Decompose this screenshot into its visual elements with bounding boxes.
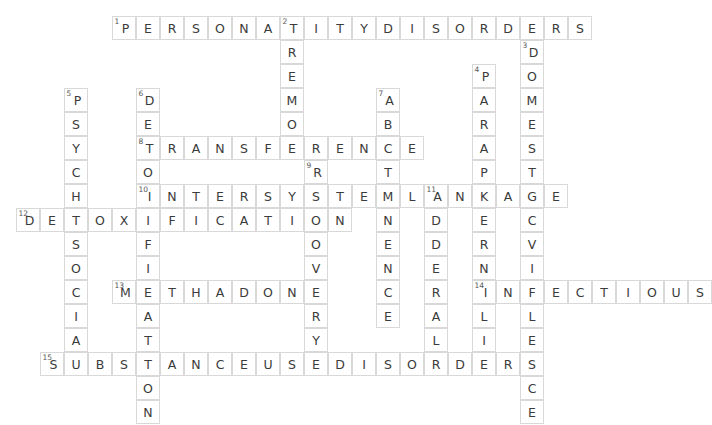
crossword-cell[interactable]: E [424,256,448,280]
crossword-cell[interactable]: A [160,352,184,376]
crossword-cell[interactable]: F [520,280,544,304]
crossword-cell[interactable]: E [136,280,160,304]
crossword-cell[interactable]: E [520,400,544,424]
crossword-cell[interactable]: E [544,280,568,304]
crossword-cell[interactable]: I [136,208,160,232]
crossword-cell[interactable]: A [496,184,520,208]
crossword-cell[interactable]: T [136,328,160,352]
crossword-cell[interactable]: 5P [64,88,88,112]
crossword-cell[interactable]: D [232,280,256,304]
crossword-cell[interactable]: E [376,304,400,328]
crossword-cell[interactable]: T [184,184,208,208]
crossword-cell[interactable]: F [256,136,280,160]
crossword-cell[interactable]: A [208,280,232,304]
crossword-cell[interactable]: D [448,352,472,376]
crossword-cell[interactable]: T [592,280,616,304]
crossword-cell[interactable]: E [136,16,160,40]
crossword-cell[interactable]: H [64,184,88,208]
crossword-cell[interactable]: N [208,136,232,160]
crossword-cell[interactable]: R [496,352,520,376]
crossword-cell[interactable]: X [112,208,136,232]
crossword-cell[interactable]: I [280,208,304,232]
crossword-cell[interactable]: E [328,136,352,160]
crossword-cell[interactable]: A [232,208,256,232]
crossword-cell[interactable]: E [472,208,496,232]
crossword-cell[interactable]: R [472,232,496,256]
crossword-cell[interactable]: C [520,376,544,400]
crossword-cell[interactable]: N [328,208,352,232]
crossword-cell[interactable]: R [304,136,328,160]
crossword-cell[interactable]: U [64,352,88,376]
crossword-cell[interactable]: 13M [112,280,136,304]
crossword-cell[interactable]: F [160,208,184,232]
crossword-cell[interactable]: E [136,112,160,136]
crossword-cell[interactable]: I [616,280,640,304]
crossword-cell[interactable]: E [376,232,400,256]
crossword-cell[interactable]: N [232,16,256,40]
crossword-cell[interactable]: T [160,280,184,304]
crossword-cell[interactable]: C [208,208,232,232]
crossword-cell[interactable]: E [208,184,232,208]
crossword-cell[interactable]: A [64,328,88,352]
crossword-cell[interactable]: S [256,184,280,208]
crossword-cell[interactable]: I [184,208,208,232]
crossword-cell[interactable]: N [184,352,208,376]
crossword-cell[interactable]: O [400,352,424,376]
crossword-cell[interactable]: A [256,16,280,40]
crossword-cell[interactable]: C [568,280,592,304]
crossword-cell[interactable]: T [328,16,352,40]
crossword-cell[interactable]: M [520,88,544,112]
crossword-cell[interactable]: L [400,184,424,208]
crossword-cell[interactable]: D [376,16,400,40]
crossword-cell[interactable]: A [424,304,448,328]
crossword-cell[interactable]: E [520,328,544,352]
crossword-cell[interactable]: 4P [472,64,496,88]
crossword-cell[interactable]: D [328,352,352,376]
crossword-cell[interactable]: O [208,16,232,40]
crossword-cell[interactable]: O [448,16,472,40]
crossword-cell[interactable]: F [136,232,160,256]
crossword-cell[interactable]: E [520,112,544,136]
crossword-cell[interactable]: E [544,184,568,208]
crossword-cell[interactable]: 15S [40,352,64,376]
crossword-cell[interactable]: N [352,136,376,160]
crossword-cell[interactable]: N [136,400,160,424]
crossword-cell[interactable]: S [688,280,712,304]
crossword-cell[interactable]: C [376,136,400,160]
crossword-cell[interactable]: E [472,352,496,376]
crossword-cell[interactable]: E [232,352,256,376]
crossword-cell[interactable]: Y [304,328,328,352]
crossword-cell[interactable]: T [64,208,88,232]
crossword-cell[interactable]: N [472,256,496,280]
crossword-cell[interactable]: O [136,376,160,400]
crossword-cell[interactable]: A [472,136,496,160]
crossword-cell[interactable]: S [64,112,88,136]
crossword-cell[interactable]: O [136,160,160,184]
crossword-cell[interactable]: L [520,304,544,328]
crossword-cell[interactable]: D [424,208,448,232]
crossword-cell[interactable]: R [160,136,184,160]
crossword-cell[interactable]: R [232,184,256,208]
crossword-cell[interactable]: A [184,136,208,160]
crossword-cell[interactable]: R [544,16,568,40]
crossword-cell[interactable]: K [472,184,496,208]
crossword-cell[interactable]: S [232,136,256,160]
crossword-cell[interactable]: I [64,304,88,328]
crossword-cell[interactable]: 2T [280,16,304,40]
crossword-cell[interactable]: T [520,160,544,184]
crossword-cell[interactable]: M [280,88,304,112]
crossword-cell[interactable]: S [520,352,544,376]
crossword-cell[interactable]: O [304,232,328,256]
crossword-cell[interactable]: U [664,280,688,304]
crossword-cell[interactable]: O [280,112,304,136]
crossword-cell[interactable]: I [520,256,544,280]
crossword-cell[interactable]: D [496,16,520,40]
crossword-cell[interactable]: Y [352,16,376,40]
crossword-cell[interactable]: S [112,352,136,376]
crossword-cell[interactable]: T [256,208,280,232]
crossword-cell[interactable]: A [136,304,160,328]
crossword-cell[interactable]: T [136,352,160,376]
crossword-cell[interactable]: 7A [376,88,400,112]
crossword-cell[interactable]: C [64,280,88,304]
crossword-cell[interactable]: P [472,160,496,184]
